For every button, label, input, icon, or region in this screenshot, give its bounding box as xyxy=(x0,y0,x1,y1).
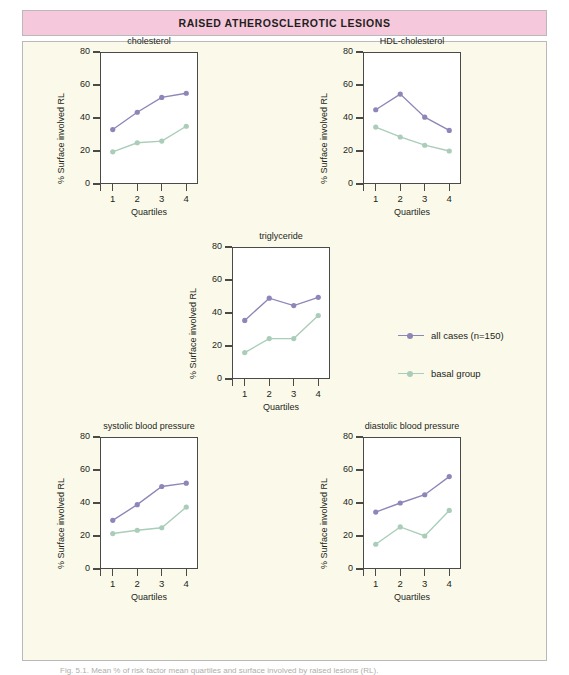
series-layer xyxy=(176,231,344,415)
legend-marker-icon xyxy=(398,370,424,378)
figure-banner-title: RAISED ATHEROSCLEROTIC LESIONS xyxy=(179,17,391,29)
series-line xyxy=(113,126,187,152)
series-layer xyxy=(307,421,475,605)
data-point xyxy=(184,91,189,96)
data-point xyxy=(398,91,403,96)
chart-cholesterol: cholesterol0204060801234% Surface involv… xyxy=(44,36,212,220)
data-point xyxy=(135,528,140,533)
data-point xyxy=(447,148,452,153)
data-point xyxy=(373,542,378,547)
data-point xyxy=(267,336,272,341)
data-point xyxy=(291,336,296,341)
data-point xyxy=(110,531,115,536)
data-point xyxy=(373,107,378,112)
data-point xyxy=(184,481,189,486)
series-line xyxy=(376,127,450,151)
chart-triglyceride: triglyceride0204060801234% Surface invol… xyxy=(176,231,344,415)
series-line xyxy=(376,94,450,130)
data-point xyxy=(447,508,452,513)
data-point xyxy=(184,505,189,510)
data-point xyxy=(316,313,321,318)
data-point xyxy=(159,139,164,144)
series-layer xyxy=(44,421,212,605)
data-point xyxy=(135,110,140,115)
data-point xyxy=(373,509,378,514)
data-point xyxy=(398,500,403,505)
chart-diastolic-blood-pressure: diastolic blood pressure0204060801234% S… xyxy=(307,421,475,605)
data-point xyxy=(422,492,427,497)
series-layer xyxy=(307,36,475,220)
chart-legend: all cases (n=150)basal group xyxy=(398,330,548,390)
data-point xyxy=(159,525,164,530)
data-point xyxy=(447,474,452,479)
data-point xyxy=(398,134,403,139)
data-point xyxy=(159,484,164,489)
data-point xyxy=(110,127,115,132)
data-point xyxy=(267,296,272,301)
data-point xyxy=(242,318,247,323)
series-line xyxy=(113,483,187,520)
data-point xyxy=(316,295,321,300)
data-point xyxy=(135,140,140,145)
legend-item: basal group xyxy=(398,368,481,379)
figure-banner: RAISED ATHEROSCLEROTIC LESIONS xyxy=(22,10,547,36)
series-line xyxy=(245,315,319,352)
data-point xyxy=(422,115,427,120)
data-point xyxy=(110,149,115,154)
data-point xyxy=(398,524,403,529)
data-point xyxy=(184,124,189,129)
data-point xyxy=(135,502,140,507)
figure-atherosclerotic-lesions: RAISED ATHEROSCLEROTIC LESIONS cholester… xyxy=(0,0,569,675)
data-point xyxy=(422,533,427,538)
chart-systolic-blood-pressure: systolic blood pressure0204060801234% Su… xyxy=(44,421,212,605)
series-layer xyxy=(44,36,212,220)
legend-marker-icon xyxy=(398,332,424,340)
series-line xyxy=(113,507,187,533)
data-point xyxy=(291,303,296,308)
legend-label: all cases (n=150) xyxy=(431,330,504,341)
figure-caption: Fig. 5.1. Mean % of risk factor mean qua… xyxy=(60,666,530,675)
data-point xyxy=(373,124,378,129)
data-point xyxy=(159,95,164,100)
series-line xyxy=(376,510,450,544)
data-point xyxy=(447,128,452,133)
series-line xyxy=(376,477,450,512)
legend-label: basal group xyxy=(431,368,481,379)
chart-hdl-cholesterol: HDL-cholesterol0204060801234% Surface in… xyxy=(307,36,475,220)
series-line xyxy=(245,297,319,320)
data-point xyxy=(242,350,247,355)
data-point xyxy=(422,143,427,148)
data-point xyxy=(110,518,115,523)
legend-item: all cases (n=150) xyxy=(398,330,504,341)
series-line xyxy=(113,93,187,129)
